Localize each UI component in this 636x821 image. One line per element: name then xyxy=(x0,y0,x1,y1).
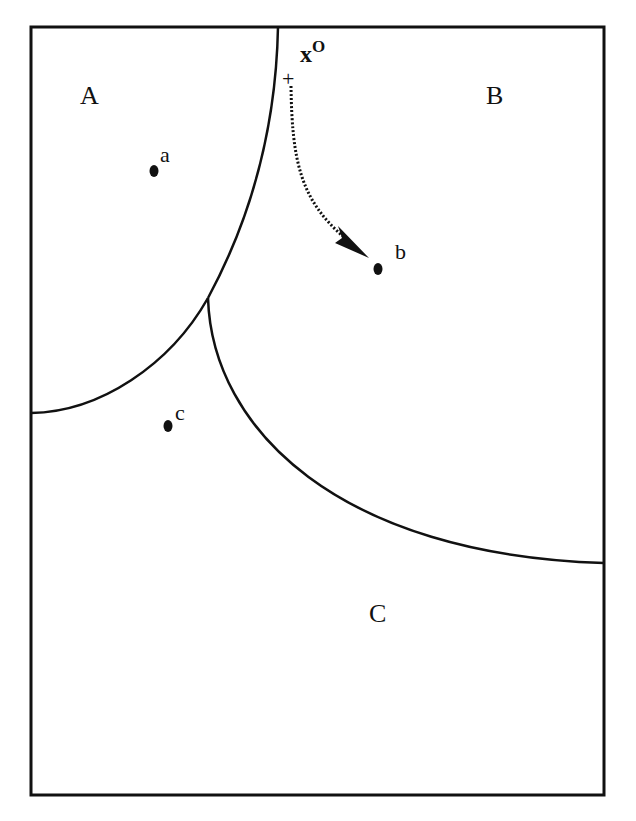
point-label-a: a xyxy=(160,142,170,167)
start-label-x: x xyxy=(300,41,312,67)
point-c-dot xyxy=(164,420,173,432)
start-cross-icon: + xyxy=(282,66,294,91)
frame-border xyxy=(31,27,604,795)
boundary-a-b xyxy=(208,27,278,298)
region-label-c: C xyxy=(369,599,386,628)
start-label-superscript: O xyxy=(312,37,325,56)
boundary-b-c xyxy=(208,298,604,563)
point-a-dot xyxy=(150,165,159,177)
boundary-a-c xyxy=(31,298,208,413)
point-b-dot xyxy=(374,263,383,275)
start-label: xO xyxy=(300,37,325,67)
trajectory-dotted-path xyxy=(291,86,345,238)
point-label-b: b xyxy=(395,239,406,264)
decision-region-diagram: A B C a b c + xO xyxy=(0,0,636,821)
trajectory-arrowhead-icon xyxy=(335,226,369,258)
region-label-a: A xyxy=(80,81,99,110)
region-label-b: B xyxy=(486,81,503,110)
point-label-c: c xyxy=(175,400,185,425)
